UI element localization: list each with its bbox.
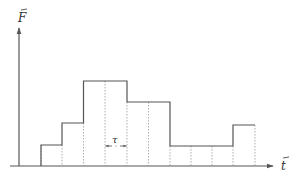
svg-text:τ: τ	[112, 134, 118, 145]
tau-interval-marker: τ	[106, 134, 127, 147]
step-force-diagram: F t τ	[0, 0, 302, 179]
x-axis-label: t	[281, 157, 289, 173]
step-function-outline	[41, 81, 255, 166]
vector-arrow-icon	[283, 157, 289, 158]
svg-text:F: F	[17, 11, 27, 25]
dot	[115, 145, 116, 146]
svg-text:t: t	[281, 159, 286, 173]
y-axis-label: F	[17, 9, 27, 25]
vector-arrow-icon	[21, 9, 27, 10]
